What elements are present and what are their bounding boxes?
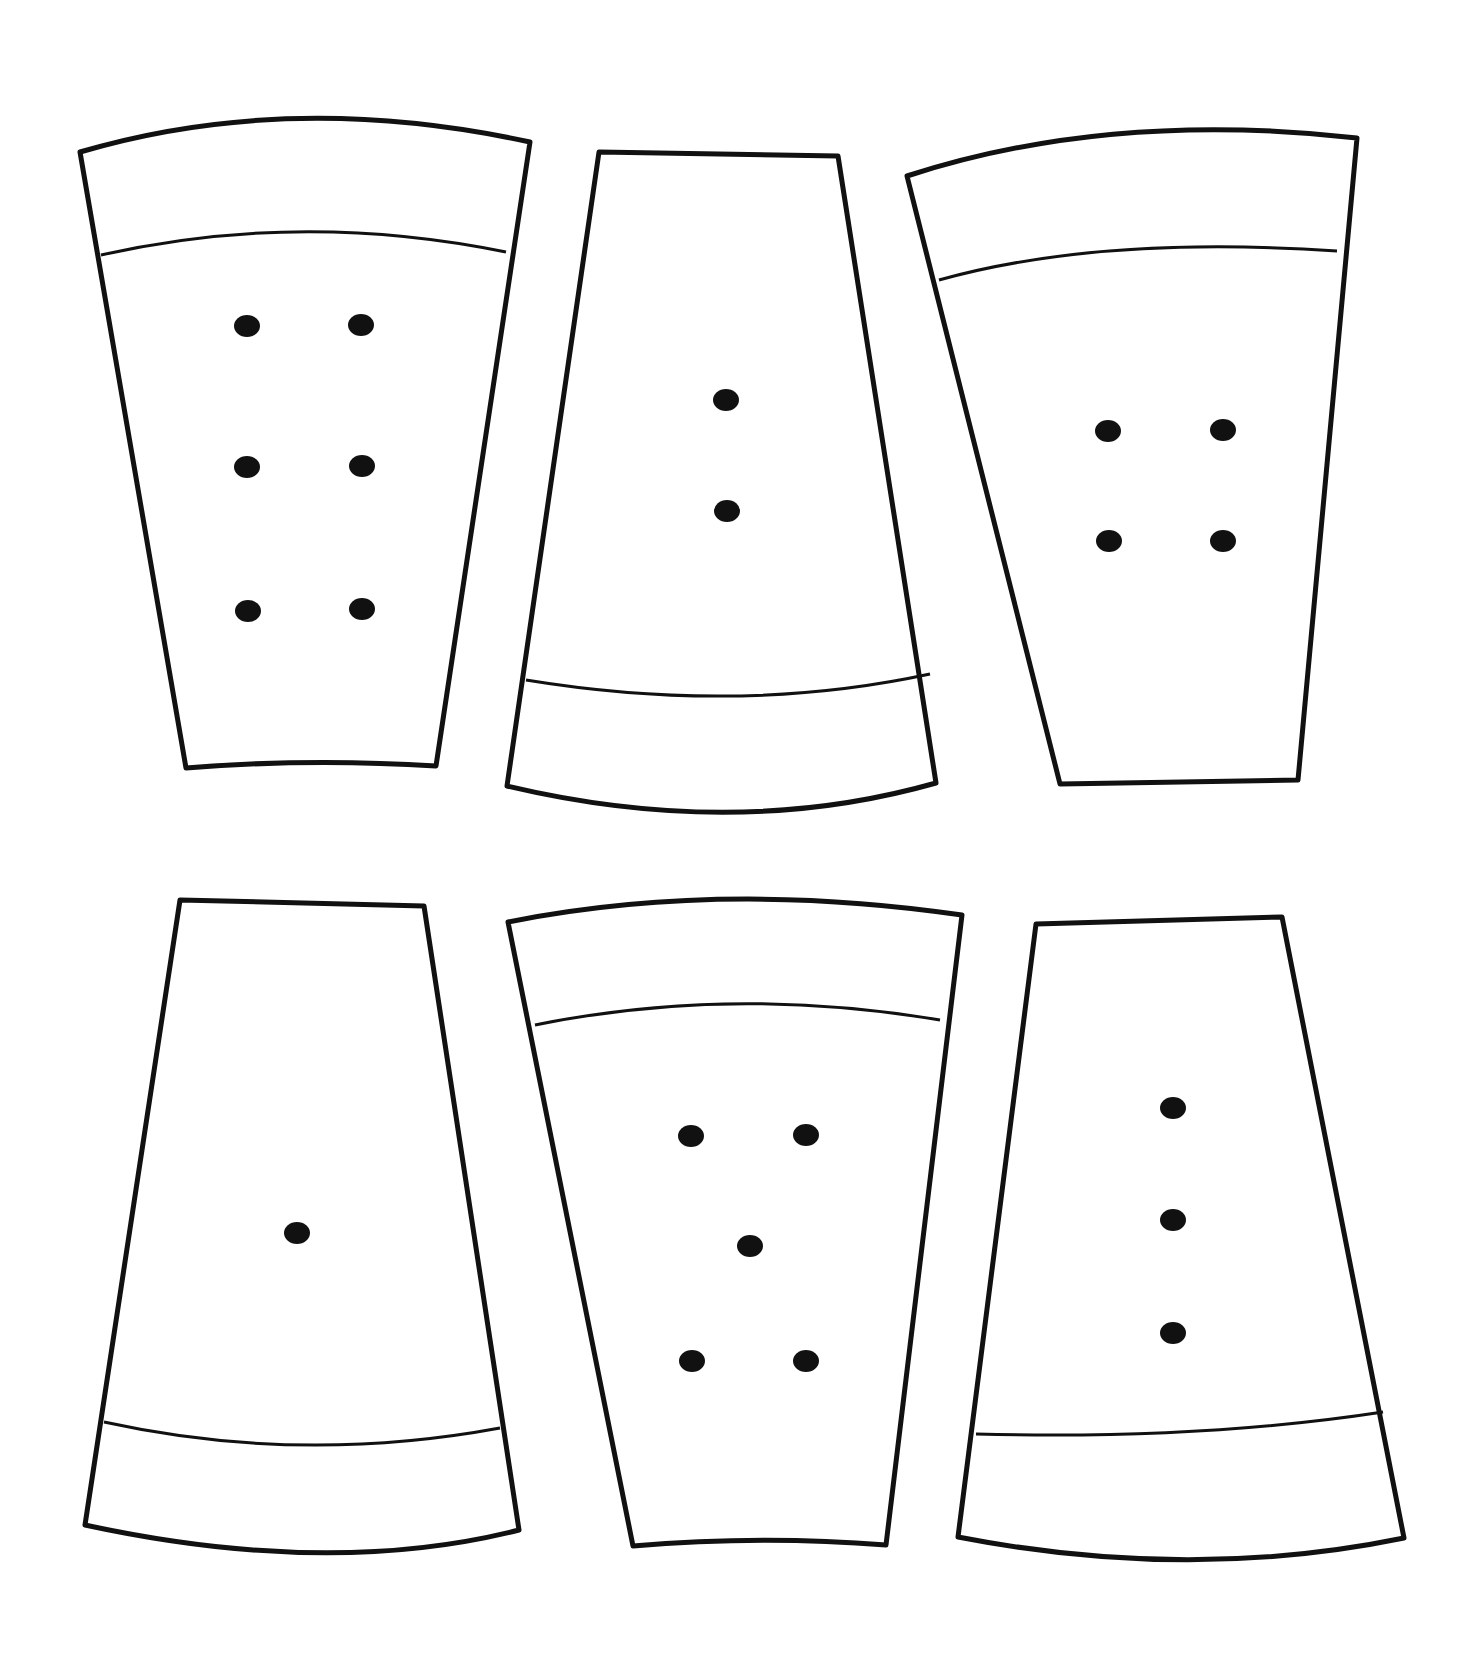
seed-dot <box>793 1124 819 1146</box>
slice-outline <box>508 899 962 1546</box>
seed-dot <box>1160 1209 1186 1231</box>
seed-dot <box>678 1125 704 1147</box>
watermelon-slice-4 <box>85 900 519 1553</box>
seed-dot <box>1210 530 1236 552</box>
seed-dot <box>1160 1097 1186 1119</box>
seed-dot <box>284 1222 310 1244</box>
seed-dot <box>1096 530 1122 552</box>
slice-outline <box>507 152 936 812</box>
seed-dot <box>1210 419 1236 441</box>
seed-dot <box>234 456 260 478</box>
seed-dot <box>1160 1322 1186 1344</box>
seed-dot <box>348 314 374 336</box>
seed-dot <box>713 389 739 411</box>
slices-layer <box>80 118 1404 1559</box>
watermelon-slice-6 <box>958 917 1404 1560</box>
slice-outline <box>907 130 1357 784</box>
seed-dot <box>737 1235 763 1257</box>
seed-dot <box>349 455 375 477</box>
seed-dot <box>234 315 260 337</box>
watermelon-slice-3 <box>907 130 1357 784</box>
seed-dot <box>679 1350 705 1372</box>
seed-dot <box>714 500 740 522</box>
watermelon-slice-2 <box>507 152 936 812</box>
seed-dot <box>1095 420 1121 442</box>
watermelon-slice-1 <box>80 118 530 768</box>
slice-outline <box>958 917 1404 1560</box>
seed-dot <box>793 1350 819 1372</box>
worksheet-canvas <box>0 0 1479 1656</box>
seed-dot <box>349 598 375 620</box>
watermelon-slice-5 <box>508 899 962 1546</box>
slice-outline <box>80 118 530 768</box>
seed-dot <box>235 600 261 622</box>
